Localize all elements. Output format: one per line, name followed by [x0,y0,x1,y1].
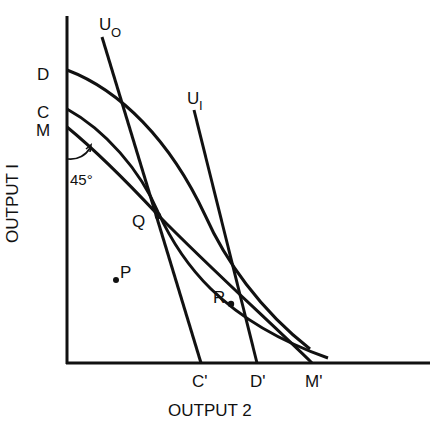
label-r: R [213,288,225,307]
x-axis-label: OUTPUT 2 [168,401,252,420]
frontier-d [67,70,310,349]
indifference-u1 [194,110,257,363]
label-c: C [37,103,49,122]
label-u1-sub: I [199,98,203,113]
label-u1: U [187,89,199,108]
label-q: Q [132,212,145,231]
point-p-dot [113,277,119,283]
label-u0: U [99,15,111,34]
diagram-canvas: U O U I D C M 45° Q R P C' D' M' OUTPUT … [0,0,446,428]
y-axis-label: OUTPUT I [3,164,22,243]
label-d-prime: D' [250,372,266,391]
label-p: P [120,263,131,282]
indifference-u0 [102,37,201,363]
frontier-c [67,109,328,358]
label-m-prime: M' [305,372,322,391]
label-d: D [37,65,49,84]
angle-arc [68,148,90,159]
label-c-prime: C' [192,372,208,391]
point-q-dot [155,213,161,219]
angle-label: 45° [70,171,93,188]
label-m: M [36,121,50,140]
label-u0-sub: O [111,25,121,40]
point-r-dot [228,301,234,307]
